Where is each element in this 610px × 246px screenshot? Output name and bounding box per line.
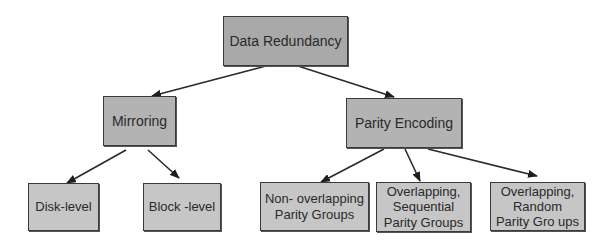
arrow-mirroring-to-block-level (148, 150, 179, 178)
arrow-root-to-parity-encoding (298, 66, 394, 97)
arrow-root-to-mirroring (152, 66, 266, 96)
node-mirroring: Mirroring (103, 96, 176, 146)
arrow-mirroring-to-disk-level (67, 150, 126, 183)
node-label: Disk-level (35, 199, 91, 214)
node-label: Parity Encoding (355, 115, 453, 132)
node-non-overlapping-parity-groups: Non- overlapping Parity Groups (260, 182, 369, 231)
arrow-parity-to-overlapping-random (428, 149, 537, 176)
node-data-redundancy: Data Redundancy (223, 16, 348, 66)
node-label: Block -level (149, 199, 215, 214)
node-block-level: Block -level (143, 183, 221, 231)
diagram-canvas: Data Redundancy Mirroring Parity Encodin… (0, 0, 610, 246)
node-label: Non- overlapping Parity Groups (265, 191, 364, 222)
node-disk-level: Disk-level (28, 183, 99, 231)
node-label: Overlapping, Random Parity Gro ups (496, 184, 579, 230)
node-label: Mirroring (112, 113, 167, 130)
arrow-parity-to-non-overlapping (321, 149, 384, 182)
node-overlapping-random-parity-groups: Overlapping, Random Parity Gro ups (490, 182, 585, 231)
node-overlapping-sequential-parity-groups: Overlapping, Sequential Parity Groups (376, 182, 471, 232)
node-parity-encoding: Parity Encoding (346, 98, 462, 148)
node-label: Overlapping, Sequential Parity Groups (384, 184, 463, 230)
node-label: Data Redundancy (229, 33, 341, 50)
arrow-parity-to-overlapping-sequential (405, 149, 420, 181)
